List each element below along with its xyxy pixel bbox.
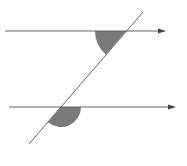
bottom-arrowhead-icon	[168, 105, 176, 110]
transversal-line	[29, 12, 143, 144]
bottom-shaded-angle	[48, 107, 81, 127]
top-shaded-angle	[95, 31, 126, 55]
diagram-canvas	[0, 0, 187, 166]
parallel-lines-diagram	[0, 0, 187, 166]
top-arrowhead-icon	[158, 29, 166, 34]
